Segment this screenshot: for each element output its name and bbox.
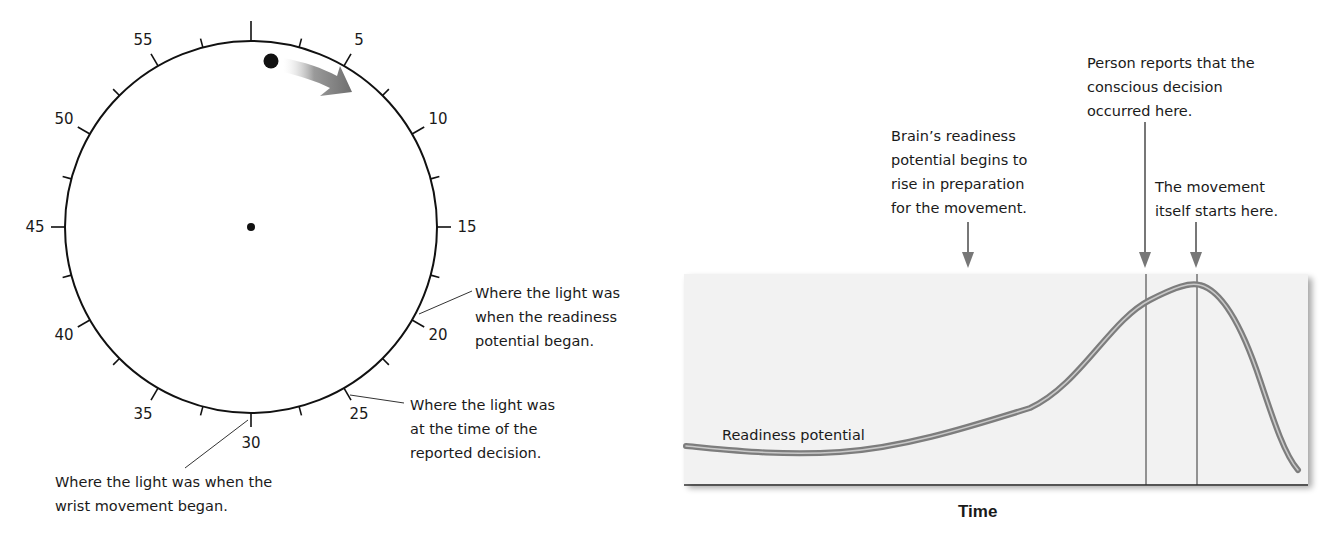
annotation-readiness-began: Where the light was when the readiness p… bbox=[475, 285, 625, 349]
annotation-reported-decision: Where the light was at the time of the r… bbox=[410, 397, 560, 461]
libet-clock: 510152025303540455055 Where the light wa… bbox=[25, 21, 624, 514]
annotation-readiness-rise: Brain’s readiness potential begins to ri… bbox=[891, 128, 1032, 216]
clock-tick bbox=[201, 39, 203, 48]
clock-tick bbox=[412, 320, 424, 327]
clock-center-dot bbox=[247, 223, 255, 231]
clock-tick-label: 55 bbox=[133, 31, 152, 49]
annotation-movement-start: The movement itself starts here. bbox=[1154, 179, 1278, 219]
leader-line-readiness bbox=[419, 291, 472, 314]
clock-tick bbox=[63, 275, 72, 277]
curve-label: Readiness potential bbox=[722, 427, 865, 443]
clock-tick-label: 10 bbox=[429, 110, 448, 128]
clock-tick bbox=[431, 177, 440, 179]
clock-tick bbox=[201, 407, 203, 416]
clock-tick bbox=[383, 89, 389, 95]
clock-tick bbox=[151, 54, 158, 66]
clock-tick bbox=[299, 407, 301, 416]
light-dot bbox=[264, 54, 279, 69]
annotation-conscious-decision: Person reports that the conscious decisi… bbox=[1087, 55, 1259, 119]
clock-tick bbox=[78, 320, 90, 327]
x-axis-title: Time bbox=[958, 502, 997, 521]
figure-canvas: 510152025303540455055 Where the light wa… bbox=[0, 0, 1323, 542]
clock-tick bbox=[344, 388, 351, 400]
clock-tick bbox=[412, 127, 424, 134]
clock-tick bbox=[299, 39, 301, 48]
readiness-potential-chart: Readiness potential Time Brain’s readine… bbox=[684, 55, 1308, 521]
leader-line-wrist bbox=[185, 420, 248, 468]
clock-tick-label: 35 bbox=[133, 405, 152, 423]
leader-line-decision bbox=[350, 395, 404, 403]
annotation-wrist-movement: Where the light was when the wrist movem… bbox=[55, 474, 277, 514]
clock-tick bbox=[63, 177, 72, 179]
clock-tick-label: 20 bbox=[429, 326, 448, 344]
movement-start-arrow-icon bbox=[1190, 222, 1202, 268]
clock-tick bbox=[78, 127, 90, 134]
clock-tick bbox=[113, 359, 119, 365]
clock-tick bbox=[151, 388, 158, 400]
clock-tick bbox=[113, 89, 119, 95]
clock-tick-label: 25 bbox=[349, 405, 368, 423]
clock-tick-label: 15 bbox=[457, 218, 476, 236]
clock-tick bbox=[344, 54, 351, 66]
conscious-decision-arrow-icon bbox=[1139, 122, 1151, 268]
clock-tick-label: 30 bbox=[241, 434, 260, 452]
clock-tick-label: 45 bbox=[25, 218, 44, 236]
clock-tick-label: 50 bbox=[54, 110, 73, 128]
clock-tick-label: 40 bbox=[54, 326, 73, 344]
readiness-rise-arrow-icon bbox=[962, 222, 974, 268]
clock-tick bbox=[383, 359, 389, 365]
clock-tick-label: 5 bbox=[354, 31, 364, 49]
clock-tick bbox=[431, 275, 440, 277]
